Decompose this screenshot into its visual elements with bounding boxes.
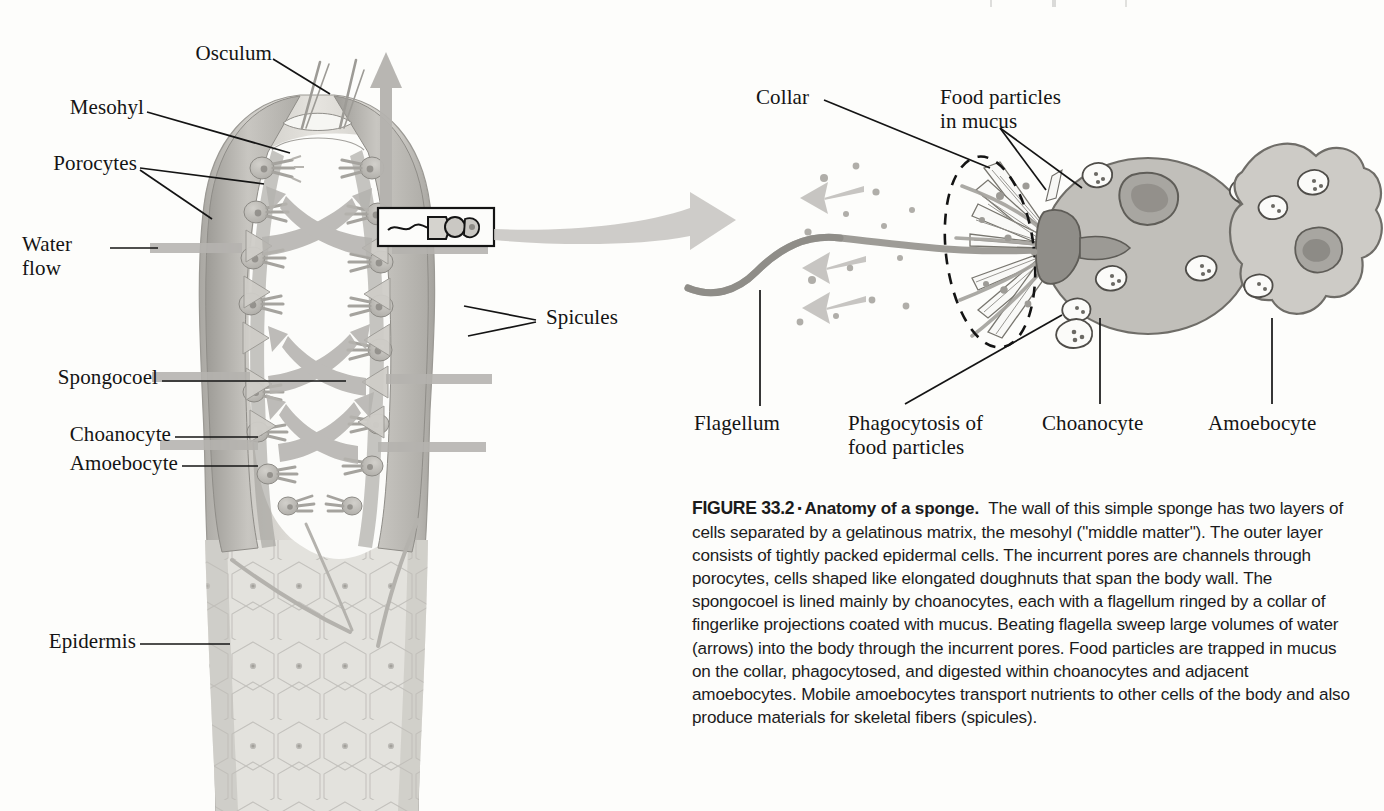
- figure-caption: FIGURE 33.2▪Anatomy of a sponge. The wal…: [692, 497, 1352, 729]
- leader-osculum: [273, 59, 330, 94]
- label-water-flow: Water flow: [22, 233, 132, 281]
- label-phagocytosis-of-food-particles: Phagocytosis of food particles: [848, 412, 983, 460]
- magnification-pointer-arrow: [494, 192, 736, 250]
- label-amoebocyte-detail: Amoebocyte: [1208, 412, 1316, 436]
- label-choanocyte-sponge: Choanocyte: [16, 423, 171, 447]
- leader-porocytes-b: [140, 170, 212, 219]
- label-flagellum: Flagellum: [694, 412, 780, 436]
- label-osculum: Osculum: [60, 42, 272, 66]
- figure-title: Anatomy of a sponge.: [804, 499, 979, 518]
- label-amoebocyte-sponge: Amoebocyte: [16, 452, 178, 476]
- label-collar: Collar: [756, 86, 809, 110]
- label-choanocyte-detail: Choanocyte: [1042, 412, 1143, 436]
- figure-number: FIGURE 33.2: [692, 498, 794, 518]
- magnification-callout-box: [378, 208, 494, 246]
- label-epidermis: Epidermis: [10, 630, 136, 654]
- leader-spicules-a: [464, 306, 536, 320]
- leader-spicules-b: [468, 322, 536, 336]
- figure-separator-bullet: ▪: [794, 501, 804, 515]
- figure-anatomy-of-a-sponge: Osculum Mesohyl Porocytes Water flow Spi…: [0, 0, 1384, 811]
- detail-water-arrows: [800, 182, 866, 324]
- label-food-particles-in-mucus: Food particles in mucus: [940, 86, 1061, 134]
- label-spicules: Spicules: [546, 306, 618, 330]
- label-spongocoel: Spongocoel: [8, 366, 158, 390]
- label-mesohyl: Mesohyl: [20, 96, 144, 120]
- figure-caption-body: The wall of this simple sponge has two l…: [692, 499, 1350, 727]
- phagocytosis-site: [1056, 319, 1092, 348]
- label-porocytes: Porocytes: [10, 152, 137, 176]
- sponge-illustration: [150, 52, 736, 811]
